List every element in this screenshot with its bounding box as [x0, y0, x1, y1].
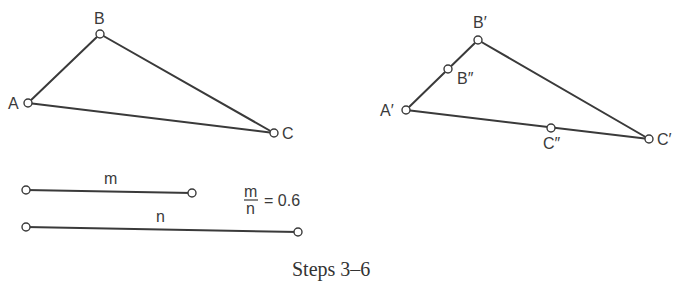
triangle-a-prime-b-prime-c-prime: A′ B′ C′ B″ C″: [380, 14, 672, 152]
label-b-prime: B′: [473, 14, 487, 31]
label-a-prime: A′: [380, 102, 394, 119]
figure-caption: Steps 3–6: [292, 258, 370, 281]
ratio-equation: m n = 0.6: [244, 183, 300, 217]
label-c-prime: C′: [657, 131, 672, 148]
ratio-value: = 0.6: [264, 192, 300, 209]
label-b-double-prime: B″: [457, 70, 474, 87]
point-c: [270, 129, 278, 137]
side-a-prime-c-prime: [406, 110, 649, 139]
point-b-double-prime: [444, 65, 452, 73]
diagram-canvas: A B C A′ B′ C′ B″ C″ m n m n = 0.6: [0, 0, 677, 281]
point-a: [24, 99, 32, 107]
point-b: [96, 30, 104, 38]
segment-n-start: [22, 223, 30, 231]
ratio-denominator: n: [246, 200, 255, 217]
segment-n: n: [22, 208, 302, 236]
point-a-prime: [402, 106, 410, 114]
point-b-prime: [474, 36, 482, 44]
ratio-numerator: m: [244, 183, 257, 200]
label-c-double-prime: C″: [543, 135, 561, 152]
segment-m-start: [22, 186, 30, 194]
label-m: m: [104, 170, 117, 187]
side-b-prime-c-prime: [478, 40, 649, 139]
segment-n-end: [294, 228, 302, 236]
triangle-abc: A B C: [8, 10, 294, 142]
side-ab: [28, 34, 100, 103]
segment-m: m: [22, 170, 196, 197]
label-b: B: [94, 10, 105, 27]
side-ac: [28, 103, 274, 133]
point-c-prime: [645, 135, 653, 143]
side-bc: [100, 34, 274, 133]
segment-m-end: [188, 189, 196, 197]
label-c: C: [282, 125, 294, 142]
label-n: n: [156, 208, 165, 225]
label-a: A: [8, 95, 19, 112]
point-c-double-prime: [547, 124, 555, 132]
